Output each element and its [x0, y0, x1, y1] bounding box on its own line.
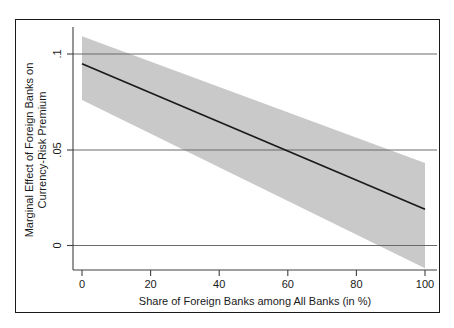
x-tick-label-20: 20 — [144, 278, 156, 290]
y-tick-label-0: 0 — [51, 242, 63, 248]
x-tick-label-0: 0 — [79, 278, 85, 290]
y-axis-title-line1: Marginal Effect of Foreign Banks on — [23, 63, 35, 238]
x-tick-label-40: 40 — [213, 278, 225, 290]
x-tick-label-80: 80 — [350, 278, 362, 290]
confidence-interval-band — [82, 36, 425, 268]
y-tick-label-0point1: .1 — [51, 49, 63, 58]
marginal-effect-line — [82, 64, 425, 210]
marginal-effect-plot: .1 .05 0 0 20 40 60 80 100 Share of Fore… — [0, 0, 454, 328]
x-tick-label-100: 100 — [416, 278, 434, 290]
y-axis-title-line2: Currency-Risk Premium — [36, 92, 48, 209]
figure-container: .1 .05 0 0 20 40 60 80 100 Share of Fore… — [0, 0, 454, 328]
x-tick-label-60: 60 — [282, 278, 294, 290]
x-axis-title: Share of Foreign Banks among All Banks (… — [139, 295, 371, 307]
y-tick-label-0point05: .05 — [51, 142, 63, 157]
